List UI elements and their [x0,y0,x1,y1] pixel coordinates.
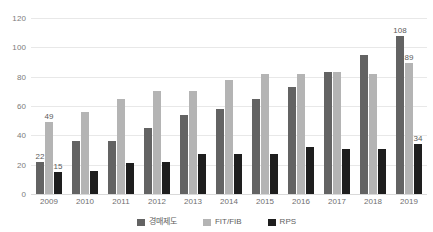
bar[interactable]: 34 [414,144,422,194]
legend-swatch-icon [203,219,211,226]
bar[interactable] [117,99,125,194]
bar[interactable] [162,162,170,194]
bar-group [355,18,391,194]
legend-label: FIT/FIB [215,217,242,227]
bar[interactable]: 108 [396,36,404,194]
bar[interactable]: 89 [405,63,413,194]
y-tick-label: 20 [17,161,26,170]
bar-group [139,18,175,194]
bar[interactable] [72,141,80,194]
x-tick-label: 2009 [31,196,67,209]
bar[interactable] [369,74,377,194]
y-tick-label: 0 [21,190,26,199]
y-tick-label: 40 [17,131,26,140]
y-tick-label: 120 [12,14,26,23]
x-tick-label: 2011 [103,196,139,209]
legend-label: 경매제도 [149,217,177,227]
bar-group [247,18,283,194]
bar[interactable] [360,55,368,194]
bar[interactable] [225,80,233,194]
bar[interactable] [261,74,269,194]
bar-value-label: 108 [393,26,406,35]
bar-group [175,18,211,194]
bar[interactable] [189,91,197,194]
bar[interactable] [297,74,305,194]
x-tick-label: 2014 [211,196,247,209]
bar[interactable] [216,109,224,194]
bar-group [211,18,247,194]
x-axis: 2009201020112012201320142015201620172018… [31,196,427,209]
bar[interactable] [144,128,152,194]
bar-value-label: 49 [45,112,54,121]
bar[interactable] [306,147,314,194]
legend-swatch-icon [137,219,145,226]
bar-group [103,18,139,194]
x-tick-label: 2018 [355,196,391,209]
bar-group [67,18,103,194]
x-tick-label: 2015 [247,196,283,209]
plot-area: 2249151088934 [31,18,427,194]
bar[interactable] [270,154,278,194]
x-tick-label: 2013 [175,196,211,209]
bar[interactable] [378,149,386,194]
legend-item[interactable]: FIT/FIB [203,217,242,227]
legend-item[interactable]: 경매제도 [137,217,177,227]
bar-value-label: 15 [54,162,63,171]
bar-groups: 2249151088934 [31,18,427,194]
bar[interactable]: 22 [36,162,44,194]
y-tick-label: 60 [17,102,26,111]
y-tick-label: 80 [17,73,26,82]
x-tick-label: 2012 [139,196,175,209]
bar-group: 224915 [31,18,67,194]
x-tick-label: 2010 [67,196,103,209]
bar-chart: 120100806040200 2249151088934 2009201020… [0,0,433,232]
x-tick-label: 2019 [391,196,427,209]
gridline [31,194,427,195]
y-tick-label: 100 [12,43,26,52]
bar[interactable] [234,154,242,194]
bar[interactable] [126,163,134,194]
x-tick-label: 2016 [283,196,319,209]
bar[interactable] [90,171,98,194]
bar[interactable] [198,154,206,194]
bar[interactable] [153,91,161,194]
bar-group: 1088934 [391,18,427,194]
bar-value-label: 22 [36,152,45,161]
x-tick-label: 2017 [319,196,355,209]
bar[interactable] [180,115,188,194]
bar-group [319,18,355,194]
bar[interactable]: 15 [54,172,62,194]
legend-label: RPS [280,217,296,227]
bar[interactable] [81,112,89,194]
bar[interactable] [108,141,116,194]
legend-swatch-icon [268,219,276,226]
bar[interactable] [333,72,341,194]
legend-item[interactable]: RPS [268,217,296,227]
bar-value-label: 89 [405,53,414,62]
bar[interactable] [252,99,260,194]
bar[interactable]: 49 [45,122,53,194]
chart-legend: 경매제도FIT/FIBRPS [0,214,433,230]
bar[interactable] [288,87,296,194]
bar[interactable] [342,149,350,194]
bar[interactable] [324,72,332,194]
bar-value-label: 34 [414,134,423,143]
y-axis: 120100806040200 [0,18,26,194]
bar-group [283,18,319,194]
